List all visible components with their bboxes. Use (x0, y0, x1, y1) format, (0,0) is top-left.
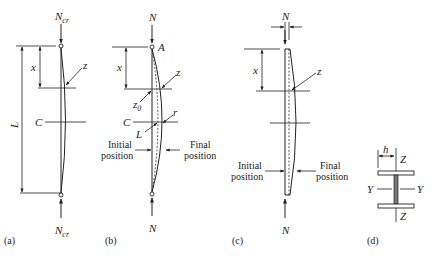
final-position-curve (152, 49, 162, 192)
z-label: z (82, 59, 88, 71)
top-hinge (59, 44, 63, 48)
bottom-force-label: N (281, 224, 290, 236)
initial-position-label-1: Initial (238, 160, 262, 171)
h-label: h (383, 143, 389, 155)
panel-a: Ncr x L z C Ncr (a) (4, 10, 88, 247)
C-label: C (123, 116, 131, 128)
top-hinge (150, 45, 154, 49)
L-label: L (135, 128, 142, 140)
z-leader (66, 68, 82, 85)
r-label: r (173, 106, 178, 118)
caption-d: (d) (367, 235, 379, 247)
y-axis-right-label: Y (417, 183, 425, 195)
panel-d: h Z Z Y Y (d) (367, 143, 425, 247)
initial-position-label-1: Initial (108, 139, 132, 150)
top-force-label: N (148, 11, 157, 23)
bottom-force-label: Ncr (54, 224, 70, 239)
bottom-force-label: N (148, 222, 157, 234)
final-position-label-2: position (184, 150, 216, 161)
buckling-figure: Ncr x L z C Ncr (a) N A (0, 0, 433, 256)
x-label: x (116, 61, 122, 73)
top-force-label: Ncr (54, 10, 70, 25)
z-axis-bottom-label: Z (400, 210, 407, 222)
panel-b: N A x z z0 C L r Initial position Final … (101, 11, 216, 247)
z0-label: z0 (132, 98, 141, 113)
top-force-label: N (281, 10, 290, 22)
L-label: L (8, 122, 20, 129)
final-position-label-2: position (316, 171, 348, 182)
z-label: z (316, 65, 322, 77)
x-label: x (252, 64, 258, 76)
buckled-column (61, 48, 66, 193)
panel-c: N x z Initial position Final position N … (231, 10, 348, 247)
A-label: A (157, 41, 165, 53)
top-flange (378, 171, 414, 175)
L-leader (145, 123, 157, 132)
caption-a: (a) (4, 235, 15, 247)
bottom-flange (378, 204, 414, 208)
bottom-hinge (150, 192, 154, 196)
bottom-hinge (59, 193, 63, 197)
final-position-label-1: Final (190, 139, 211, 150)
caption-c: (c) (232, 235, 243, 247)
initial-position-label-2: position (101, 150, 133, 161)
z-leader (292, 73, 316, 90)
web (394, 175, 398, 204)
initial-position-label-2: position (231, 171, 263, 182)
z0-leader (140, 91, 151, 102)
z-axis-top-label: Z (400, 153, 407, 165)
caption-b: (b) (105, 235, 117, 247)
z-label: z (175, 66, 181, 78)
z-leader (162, 75, 176, 88)
deflected-column (285, 49, 296, 195)
y-axis-left-label: Y (367, 183, 375, 195)
C-label: C (35, 116, 43, 128)
final-position-label-1: Final (320, 160, 341, 171)
x-label: x (30, 61, 36, 73)
